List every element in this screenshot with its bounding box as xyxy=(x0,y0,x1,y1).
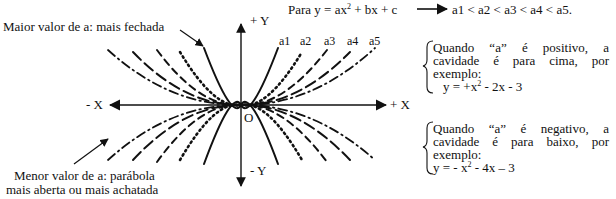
negative-note: Quando “a” é negativo, a cavidade é para… xyxy=(433,122,609,174)
min-a-annotation-line2: mais aberta ou mais achatada xyxy=(6,182,159,197)
origin-label: O xyxy=(244,110,253,125)
neg-y-label: - Y xyxy=(250,163,267,178)
positive-note-brace xyxy=(423,41,433,93)
max-a-annotation: Maior valor de a: mais fechada xyxy=(3,19,165,34)
positive-example-suffix: - 2x - 3 xyxy=(481,79,522,94)
positive-note: Quando “a” é positivo, a cavidade é para… xyxy=(433,41,609,93)
formula-text: Para y = ax xyxy=(288,2,347,17)
order-text: a1 < a2 < a3 < a4 < a5. xyxy=(452,2,572,17)
max-a-pointer-arrow xyxy=(180,30,203,46)
curve-label-a2: a2 xyxy=(300,34,311,48)
negative-example: y = - x2 - 4x – 3 xyxy=(433,161,609,174)
order-header: a1 < a2 < a3 < a4 < a5. xyxy=(452,3,572,16)
formula-suffix: + bx + c xyxy=(351,2,397,17)
formula-header: Para y = ax2 + bx + c xyxy=(288,3,397,16)
pos-x-label: + X xyxy=(390,97,411,112)
negative-example-suffix: - 4x – 3 xyxy=(471,160,514,175)
positive-example-prefix: y = +x xyxy=(443,79,477,94)
min-a-annotation-line1: Menor valor de a: parábola xyxy=(14,168,155,183)
negative-note-brace xyxy=(423,122,433,174)
min-a-pointer-arrow xyxy=(74,139,108,164)
curve-label-a4: a4 xyxy=(347,34,358,48)
curve-label-a1: a1 xyxy=(279,34,290,48)
pos-y-label: + Y xyxy=(250,13,270,28)
curve-label-a5: a5 xyxy=(369,34,380,48)
curve-label-a3: a3 xyxy=(324,34,335,48)
neg-x-label: - X xyxy=(86,97,104,112)
negative-example-prefix: y = - x xyxy=(433,160,467,175)
positive-example: y = +x2 - 2x - 3 xyxy=(433,80,609,93)
